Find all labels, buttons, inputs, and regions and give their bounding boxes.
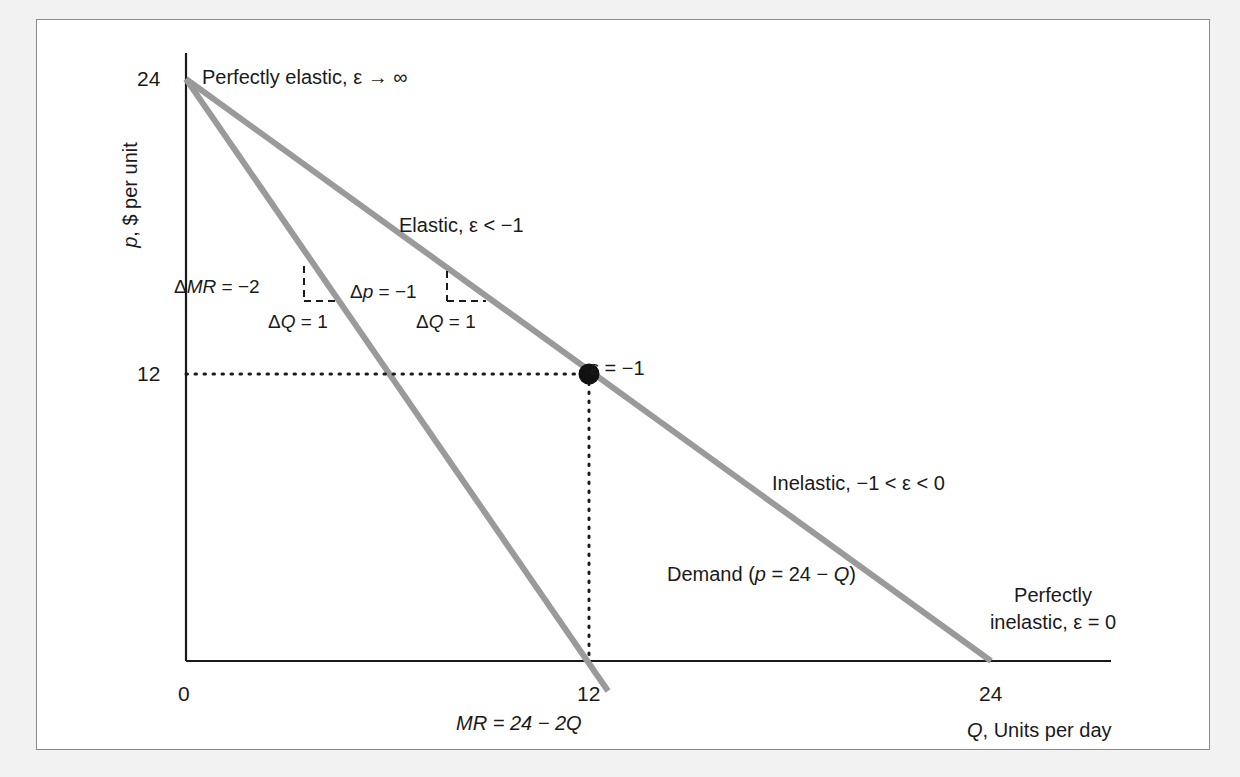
x-axis-title: Q, Units per day xyxy=(967,719,1112,743)
perfectly-elastic-label: Perfectly elastic, ε → ∞ xyxy=(202,66,407,90)
marginal-revenue-curve xyxy=(186,79,608,691)
x-tick-0: 0 xyxy=(178,682,190,707)
inelastic-label: Inelastic, −1 < ε < 0 xyxy=(772,472,945,496)
page-background: p, $ per unit 24 12 0 12 24 Q, Units per… xyxy=(0,0,1240,777)
elasticity-plot xyxy=(37,20,1211,751)
y-axis-title-rest: , $ per unit xyxy=(119,142,141,237)
demand-curve-label: Demand (p = 24 − Q) xyxy=(667,563,856,587)
y-axis-title: p, $ per unit xyxy=(115,100,145,290)
mr-curve-label: MR = 24 − 2Q xyxy=(456,712,582,736)
perfectly-inelastic-line1: Perfectly xyxy=(958,584,1148,608)
delta-p-label: Δp = −1 xyxy=(350,281,417,303)
x-tick-12: 12 xyxy=(577,682,600,707)
elastic-label: Elastic, ε < −1 xyxy=(399,214,524,238)
delta-mr-label: ΔMR = −2 xyxy=(174,276,260,298)
y-axis-title-symbol: p xyxy=(119,237,141,248)
perfectly-inelastic-line2: inelastic, ε = 0 xyxy=(958,611,1148,635)
unit-elastic-label: ε = −1 xyxy=(590,357,645,381)
y-tick-12: 12 xyxy=(137,362,160,387)
y-tick-24: 24 xyxy=(137,67,160,92)
figure-frame: p, $ per unit 24 12 0 12 24 Q, Units per… xyxy=(36,19,1210,750)
delta-q-mr-label: ΔQ = 1 xyxy=(268,311,328,333)
delta-q-demand-label: ΔQ = 1 xyxy=(416,311,476,333)
x-tick-24: 24 xyxy=(979,682,1002,707)
